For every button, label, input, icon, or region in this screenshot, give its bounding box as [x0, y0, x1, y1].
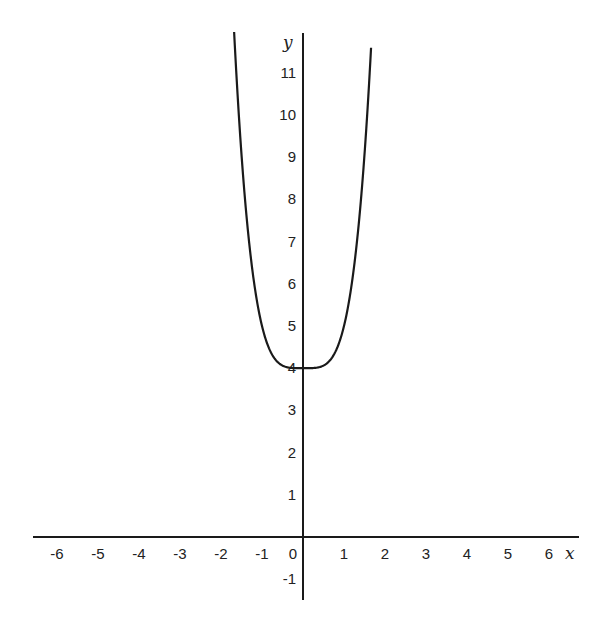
x-tick-label: -4: [132, 545, 145, 562]
y-tick-label: 8: [288, 190, 296, 207]
y-tick-label: 2: [288, 444, 296, 461]
x-tick-label: 6: [545, 545, 553, 562]
axes: [33, 33, 579, 600]
x-tick-label: -1: [255, 545, 268, 562]
x-tick-label: 2: [381, 545, 389, 562]
y-axis-label: y: [282, 32, 293, 52]
x-axis-label: x: [565, 543, 575, 563]
x-tick-label: 3: [422, 545, 430, 562]
x-tick-label: -2: [214, 545, 227, 562]
x-tick-label: 5: [504, 545, 512, 562]
x-tick-label: 1: [340, 545, 348, 562]
y-tick-label: 6: [288, 275, 296, 292]
x-tick-label: 0: [289, 545, 297, 562]
y-tick-label: 9: [288, 148, 296, 165]
x-tick-label: -5: [91, 545, 104, 562]
y-tick-label: 3: [288, 401, 296, 418]
x-tick-label: -6: [50, 545, 63, 562]
y-tick-label: 7: [288, 233, 296, 250]
y-tick-label: 1: [288, 486, 296, 503]
function-plot: -6-5-4-3-2-10123456-11234567891011 x y: [0, 0, 609, 629]
y-tick-label: -1: [283, 570, 296, 587]
y-tick-label: 5: [288, 317, 296, 334]
y-tick-label: 10: [279, 106, 296, 123]
x-tick-label: 4: [463, 545, 471, 562]
y-tick-label: 11: [280, 64, 296, 81]
tick-labels: -6-5-4-3-2-10123456-11234567891011: [50, 64, 553, 587]
x-tick-label: -3: [173, 545, 186, 562]
